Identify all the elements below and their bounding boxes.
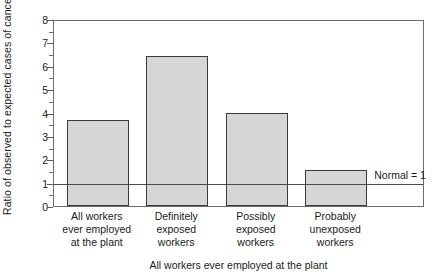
y-tick-label: 1 bbox=[30, 178, 48, 190]
y-axis-title: Ratio of observed to expected cases of c… bbox=[0, 2, 14, 215]
bar bbox=[67, 120, 129, 206]
x-axis-title: All workers ever employed at the plant bbox=[53, 259, 424, 272]
y-tick-label: 7 bbox=[30, 37, 48, 49]
y-tick-label: 0 bbox=[30, 201, 48, 213]
x-axis-tick-labels: All workers ever employed at the plantDe… bbox=[53, 210, 424, 258]
x-tick-label: Probably unexposed workers bbox=[288, 210, 384, 249]
y-tick-label: 4 bbox=[30, 108, 48, 120]
y-tick-label: 5 bbox=[30, 84, 48, 96]
reference-line-label: Normal = 1 bbox=[374, 169, 426, 181]
bar bbox=[305, 170, 367, 206]
y-axis-tick-labels: 012345678 bbox=[30, 14, 48, 214]
reference-line bbox=[54, 184, 423, 185]
y-tick-label: 2 bbox=[30, 154, 48, 166]
y-tick-label: 3 bbox=[30, 131, 48, 143]
chart-figure: Ratio of observed to expected cases of c… bbox=[0, 0, 444, 279]
bar bbox=[226, 113, 288, 206]
y-tick-label: 6 bbox=[30, 61, 48, 73]
y-tick-label: 8 bbox=[30, 14, 48, 26]
plot-area bbox=[53, 20, 424, 207]
